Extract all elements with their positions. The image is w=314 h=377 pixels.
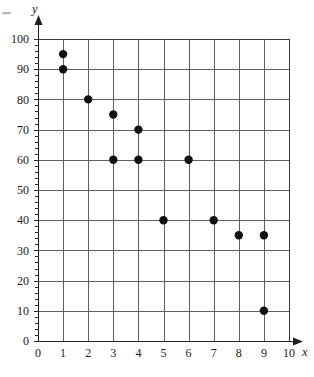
x-tick-label: 8 [236,346,242,360]
y-tick-label: 60 [17,153,29,167]
gridline-group [38,39,290,341]
plot-canvas: 012345678910 0102030405060708090100 x y [0,0,314,377]
data-point [260,307,268,315]
x-tick-label: 1 [60,346,66,360]
y-tick-label: 0 [23,334,29,348]
data-point [84,95,92,103]
data-point [109,156,117,164]
data-point [184,156,192,164]
x-tick-label: 4 [135,346,141,360]
x-tick-label: 5 [161,346,167,360]
x-tick-label: 7 [211,346,217,360]
y-tick-label: 30 [17,244,29,258]
y-tick-label: 80 [17,93,29,107]
x-axis-label: x [301,345,308,359]
data-point [59,50,67,58]
scatter-plot-figure: 012345678910 0102030405060708090100 x y [0,0,314,377]
data-point [59,65,67,73]
y-tick-label: 50 [17,183,29,197]
data-point [109,110,117,118]
y-axis-label: y [30,2,38,16]
data-point-group [59,50,268,315]
x-tick-label: 3 [110,346,116,360]
y-tick-label: 10 [17,304,29,318]
scan-artifact [2,12,11,14]
data-point [159,216,167,224]
data-point [134,156,142,164]
y-axis-arrow-icon [35,15,43,25]
y-tick-label-group: 0102030405060708090100 [11,32,29,348]
data-point [134,125,142,133]
y-tick-label: 20 [17,274,29,288]
data-point [260,231,268,239]
x-tick-label: 0 [35,346,41,360]
axis-group [35,15,304,346]
x-tick-label-group: 012345678910 [35,346,295,360]
y-tick-label: 40 [17,213,29,227]
data-point [235,231,243,239]
x-tick-label: 6 [186,346,192,360]
x-tick-label: 2 [85,346,91,360]
x-tick-label: 9 [261,346,267,360]
y-tick-label: 100 [11,32,29,46]
y-tick-label: 70 [17,123,29,137]
data-point [210,216,218,224]
x-tick-label: 10 [283,346,295,360]
y-tick-label: 90 [17,62,29,76]
